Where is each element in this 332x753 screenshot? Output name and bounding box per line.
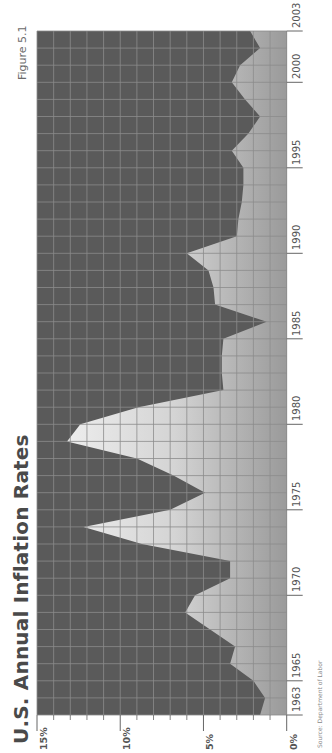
x-tick-label: 1995 (291, 139, 302, 164)
x-tick-label: 1985 (291, 310, 302, 335)
x-tick-label: 1990 (291, 225, 302, 250)
x-tick-label: 2003 (291, 3, 302, 28)
x-tick-label: 2000 (291, 54, 302, 79)
x-tick-label: 1980 (291, 396, 302, 421)
x-tick-label: 1965 (291, 652, 302, 677)
figure-label: Figure 5.1 (16, 25, 29, 80)
chart-title: U.S. Annual Inflation Rates (9, 434, 33, 744)
y-tick-label: 5% (204, 734, 215, 750)
x-tick-label: 1970 (291, 567, 302, 592)
gridlines (37, 31, 287, 715)
y-tick-label: 10% (121, 727, 132, 750)
y-tick-label: 15% (38, 727, 49, 750)
x-tick-label: 1975 (291, 481, 302, 506)
inflation-chart (0, 0, 332, 753)
y-tick-label: 0% (288, 734, 299, 750)
x-tick-label: 1963 (291, 687, 302, 712)
source-note: Source: Department of Labor (316, 661, 323, 748)
